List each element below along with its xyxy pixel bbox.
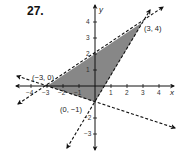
x-tick-label: −4 (26, 89, 34, 96)
x-tick-label: 4 (157, 89, 161, 96)
x-axis-label: x (169, 88, 175, 97)
y-tick-label: 4 (86, 18, 90, 25)
x-tick-label: −3 (42, 89, 50, 96)
x-tick-label: 1 (109, 89, 113, 96)
y-tick-label: 1 (86, 66, 90, 73)
point-label-c: (0, −1) (60, 105, 82, 114)
x-tick-label: −2 (58, 89, 66, 96)
y-tick-label: −3 (84, 130, 92, 137)
x-tick-label: 3 (141, 89, 145, 96)
point-label-b: (3, 4) (144, 24, 162, 33)
x-tick-label: 2 (125, 89, 129, 96)
y-axis-label: y (98, 5, 104, 14)
point-label-a: (−3, 0) (32, 73, 54, 82)
coordinate-graph: −4 −3 −2 −1 1 2 3 4 4 3 2 1 −2 −3 x y (−… (0, 0, 183, 166)
y-tick-label: 3 (86, 34, 90, 41)
